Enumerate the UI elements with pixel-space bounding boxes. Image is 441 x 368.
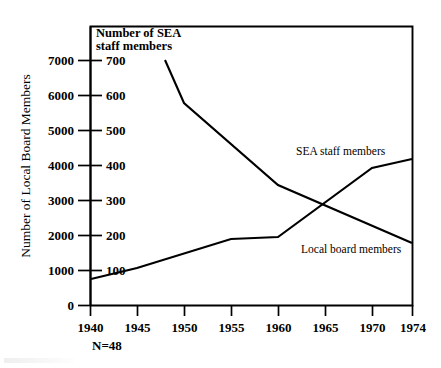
ytick-label-1000: 1000 [48, 263, 74, 278]
series-line-sea-staff-members [91, 159, 412, 279]
ytick-label-5000: 5000 [48, 123, 74, 138]
secondary-axis-title-line2: staff members [96, 39, 172, 53]
secondary-ytick-label-200: 200 [106, 228, 126, 243]
xtick-label-1940: 1940 [78, 320, 104, 335]
y-axis-title: Number of Local Board Members [18, 74, 33, 258]
xtick-label-1960: 1960 [266, 320, 292, 335]
ytick-label-4000: 4000 [48, 158, 74, 173]
annotation-local-board-members: Local board members [301, 243, 402, 255]
xtick-label-1974: 1974 [400, 320, 427, 335]
secondary-ytick-label-300: 300 [106, 193, 126, 208]
secondary-axis-ticks [90, 61, 102, 271]
left-axis-tick-labels: 0 1000 2000 3000 4000 5000 6000 7000 [48, 53, 74, 313]
annotation-sea-staff-members: SEA staff members [296, 145, 386, 157]
secondary-axis-tick-labels: 100 200 300 400 500 600 700 [106, 53, 126, 278]
secondary-ytick-label-400: 400 [106, 158, 126, 173]
ytick-label-3000: 3000 [48, 193, 74, 208]
figure-container: 0 1000 2000 3000 4000 5000 6000 7000 100… [0, 0, 441, 368]
ytick-label-2000: 2000 [48, 228, 74, 243]
secondary-ytick-label-600: 600 [106, 88, 126, 103]
xtick-label-1950: 1950 [172, 320, 198, 335]
secondary-ytick-label-700: 700 [106, 53, 126, 68]
xtick-label-1945: 1945 [125, 320, 152, 335]
secondary-ytick-label-500: 500 [106, 123, 126, 138]
xtick-label-1955: 1955 [219, 320, 246, 335]
plot-frame [91, 27, 413, 306]
ytick-label-7000: 7000 [48, 53, 74, 68]
secondary-axis-title-line1: Number of SEA [96, 26, 181, 40]
ytick-label-6000: 6000 [48, 88, 74, 103]
x-axis-ticks [91, 305, 413, 316]
line-chart: 0 1000 2000 3000 4000 5000 6000 7000 100… [0, 0, 441, 368]
secondary-axis-title: Number of SEA staff members [96, 26, 181, 53]
x-axis-tick-labels: 1940 1945 1950 1955 1960 1965 1970 1974 [78, 320, 427, 335]
sample-size-note: N=48 [92, 338, 122, 353]
ytick-label-0: 0 [68, 298, 75, 313]
xtick-label-1970: 1970 [360, 320, 386, 335]
left-axis-ticks [78, 61, 90, 306]
cropped-caption-remnant [4, 358, 74, 363]
xtick-label-1965: 1965 [313, 320, 340, 335]
